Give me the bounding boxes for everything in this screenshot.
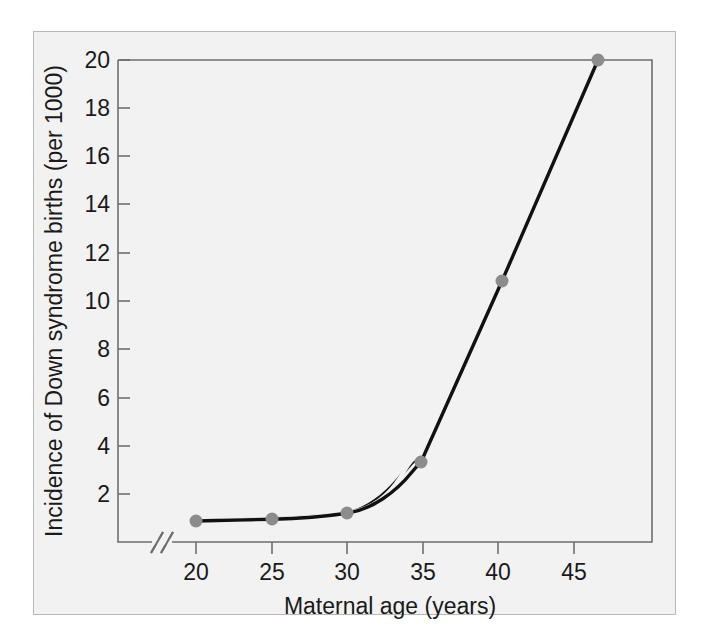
- plot-frame: [118, 60, 652, 542]
- x-axis-title: Maternal age (years): [284, 593, 496, 619]
- data-point: [592, 54, 605, 67]
- data-point: [266, 513, 279, 526]
- y-tick-label: 6: [97, 385, 110, 411]
- y-tick-label: 10: [84, 288, 110, 314]
- y-tick-label: 12: [84, 240, 110, 266]
- data-point: [341, 507, 354, 520]
- data-point-markers: [190, 54, 605, 528]
- x-tick-label: 20: [183, 559, 209, 585]
- data-series-line: [196, 60, 598, 521]
- y-axis-ticks: [118, 60, 130, 494]
- y-tick-label: 8: [97, 336, 110, 362]
- data-point: [496, 275, 509, 288]
- y-tick-label: 2: [97, 481, 110, 507]
- data-point: [190, 515, 203, 528]
- x-tick-label: 35: [410, 559, 436, 585]
- figure-container: 20 18 16 14 12 10 8 6 4 2 20 25 30 35 40: [0, 0, 703, 637]
- data-point: [415, 456, 428, 469]
- y-axis-title: Incidence of Down syndrome births (per 1…: [41, 65, 67, 537]
- x-tick-label: 40: [485, 559, 511, 585]
- y-tick-label: 18: [84, 95, 110, 121]
- y-tick-label: 14: [84, 191, 110, 217]
- x-tick-label: 45: [561, 559, 587, 585]
- x-axis-ticks: [196, 542, 574, 554]
- y-tick-label: 16: [84, 143, 110, 169]
- x-tick-labels: 20 25 30 35 40 45: [183, 559, 587, 585]
- x-tick-label: 25: [259, 559, 285, 585]
- y-tick-labels: 20 18 16 14 12 10 8 6 4 2: [84, 47, 110, 507]
- x-tick-label: 30: [334, 559, 360, 585]
- y-tick-label: 4: [97, 433, 110, 459]
- y-tick-label: 20: [84, 47, 110, 73]
- line-chart: 20 18 16 14 12 10 8 6 4 2 20 25 30 35 40: [0, 0, 703, 637]
